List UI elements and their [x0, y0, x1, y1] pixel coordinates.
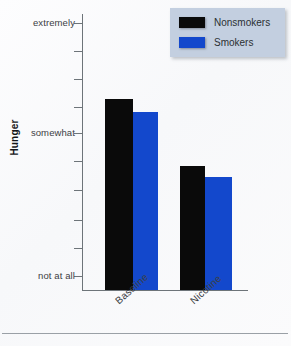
y-axis-label-not-at-all: not at all: [13, 270, 75, 281]
legend-swatch-nonsmokers: [179, 17, 205, 28]
legend-label-smokers: Smokers: [214, 37, 253, 48]
y-axis-tick: [74, 23, 82, 24]
legend-item-smokers: Smokers: [179, 36, 253, 48]
bar-baseline-nonsmokers: [105, 99, 133, 290]
legend-item-nonsmokers: Nonsmokers: [179, 16, 270, 28]
bar-nicotine-smokers: [205, 177, 232, 290]
y-axis-tick: [74, 276, 82, 277]
y-axis-label-extremely: extremely: [13, 17, 75, 28]
bottom-divider: [2, 333, 288, 334]
bar-baseline-smokers: [133, 112, 158, 290]
y-axis-tick: [74, 190, 82, 191]
x-axis-line: [82, 290, 248, 291]
legend-swatch-smokers: [179, 37, 205, 48]
y-axis-tick: [74, 79, 82, 80]
y-axis-tick: [74, 248, 82, 249]
chart-page: extremely somewhat not at all Hunger Bas…: [0, 0, 291, 346]
bar-nicotine-nonsmokers: [180, 166, 205, 290]
y-axis-tick: [74, 161, 82, 162]
y-axis-line: [82, 14, 83, 291]
y-axis-tick: [74, 220, 82, 221]
y-axis-tick: [74, 107, 82, 108]
chart-legend: Nonsmokers Smokers: [170, 8, 285, 57]
y-axis-tick: [74, 133, 82, 134]
legend-label-nonsmokers: Nonsmokers: [214, 17, 270, 28]
y-axis-title: Hunger: [9, 108, 20, 168]
y-axis-tick: [74, 51, 82, 52]
bar-chart: extremely somewhat not at all Hunger Bas…: [0, 0, 291, 346]
y-axis-label-somewhat: somewhat: [13, 127, 75, 138]
